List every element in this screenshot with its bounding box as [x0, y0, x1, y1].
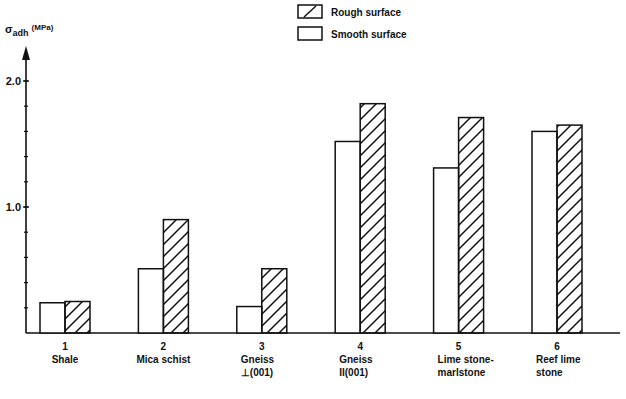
category-label-line2: stone: [536, 367, 563, 378]
category-label-line2: ⊥(001): [241, 367, 273, 378]
bar-smooth: [434, 168, 459, 333]
bar-rough: [262, 269, 287, 333]
category-number: 4: [357, 341, 363, 352]
category-label: Gneiss: [339, 354, 373, 365]
bar-smooth: [237, 307, 262, 333]
category-label: Reef lime: [536, 354, 581, 365]
category-number: 6: [554, 341, 560, 352]
y-axis-label: σadh(MPa): [5, 23, 54, 38]
category-number: 3: [259, 341, 265, 352]
y-tick-label: 1.0: [6, 201, 21, 213]
legend-label: Rough surface: [331, 7, 401, 18]
category-label: Gneiss: [241, 354, 275, 365]
bar-smooth: [532, 131, 557, 333]
category-number: 1: [62, 341, 68, 352]
bar-rough: [65, 302, 90, 334]
bar-smooth: [335, 141, 360, 333]
legend-swatch-smooth: [298, 27, 322, 40]
bar-chart: Rough surfaceSmooth surface 1.02.0σadh(M…: [0, 0, 626, 399]
category-label: Mica schist: [136, 354, 191, 365]
category-label: Shale: [52, 354, 79, 365]
bar-rough: [459, 118, 484, 333]
bar-rough: [360, 104, 385, 333]
bars: [40, 104, 582, 333]
category-label-line2: II(001): [339, 367, 368, 378]
category-number: 5: [456, 341, 462, 352]
bar-rough: [557, 125, 582, 333]
legend: Rough surfaceSmooth surface: [298, 5, 407, 40]
legend-label: Smooth surface: [331, 29, 407, 40]
bar-rough: [163, 220, 188, 333]
y-axis-arrow-icon: [22, 46, 30, 60]
category-number: 2: [161, 341, 167, 352]
bar-smooth: [40, 303, 65, 333]
y-tick-label: 2.0: [6, 75, 21, 87]
category-label-line2: marlstone: [438, 367, 486, 378]
x-axis-labels: 1Shale2Mica schist3Gneiss⊥(001)4GneissII…: [52, 341, 581, 378]
axes: 1.02.0σadh(MPa): [5, 23, 620, 333]
category-label: Lime stone-: [438, 354, 494, 365]
bar-smooth: [138, 269, 163, 333]
